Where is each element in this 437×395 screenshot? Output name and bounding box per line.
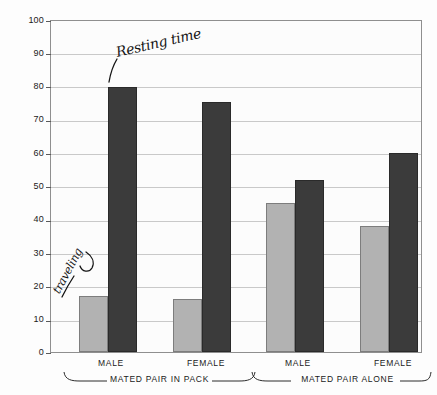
gridline-90 (51, 54, 421, 55)
bar-resting-alone-female (389, 153, 418, 352)
gridline-40 (51, 221, 421, 222)
y-tick-label-80: 80 (14, 82, 44, 91)
y-tick-label-70: 70 (14, 115, 44, 124)
bar-resting-alone-male (295, 180, 324, 352)
bar-traveling-pack-male (79, 296, 108, 352)
x-label-alone-female: FEMALE (355, 358, 431, 368)
y-tick-label-40: 40 (14, 215, 44, 224)
x-label-pack-female: FEMALE (168, 358, 244, 368)
y-tick-60 (46, 154, 51, 155)
gridline-70 (51, 121, 421, 122)
y-tick-label-90: 90 (14, 49, 44, 58)
y-tick-100 (46, 21, 51, 22)
y-tick-90 (46, 54, 51, 55)
y-tick-50 (46, 187, 51, 188)
y-tick-label-50: 50 (14, 182, 44, 191)
y-tick-0 (46, 353, 51, 354)
plot-area (50, 20, 422, 353)
y-tick-70 (46, 121, 51, 122)
gridline-60 (51, 154, 421, 155)
y-tick-label-100: 100 (14, 16, 44, 25)
group-label-mated-pair-alone: MATED PAIR ALONE (260, 374, 435, 384)
y-tick-label-20: 20 (14, 282, 44, 291)
bar-resting-pack-male (108, 87, 137, 352)
y-tick-label-60: 60 (14, 149, 44, 158)
bar-traveling-alone-female (360, 226, 389, 352)
x-label-alone-male: MALE (265, 358, 331, 368)
y-tick-label-10: 10 (14, 315, 44, 324)
y-tick-80 (46, 87, 51, 88)
y-tick-label-30: 30 (14, 249, 44, 258)
bar-chart-figure: PERCENT OF TIME 100 90 80 70 60 50 40 30… (0, 0, 437, 395)
gridline-50 (51, 187, 421, 188)
bar-traveling-pack-female (173, 299, 202, 352)
y-tick-10 (46, 321, 51, 322)
y-tick-label-0: 0 (14, 348, 44, 357)
x-label-pack-male: MALE (78, 358, 144, 368)
y-tick-30 (46, 254, 51, 255)
bar-resting-pack-female (202, 102, 231, 352)
bar-traveling-alone-male (266, 203, 295, 352)
group-label-mated-pair-in-pack: MATED PAIR IN PACK (72, 374, 247, 384)
y-tick-40 (46, 221, 51, 222)
gridline-80 (51, 87, 421, 88)
